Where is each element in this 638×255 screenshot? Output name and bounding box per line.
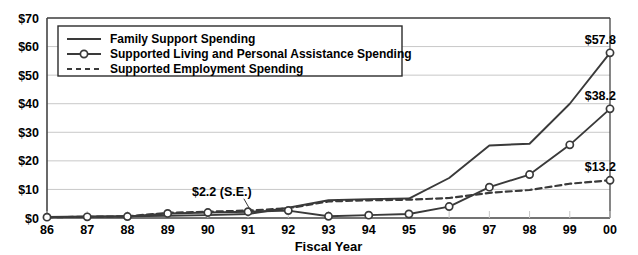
- legend-label-2: Supported Employment Spending: [110, 62, 303, 76]
- series-marker-1: [285, 207, 292, 214]
- x-axis-tick-label: 00: [603, 223, 617, 237]
- x-axis-tick-label: 93: [322, 223, 336, 237]
- y-axis-tick-label: $20: [18, 154, 39, 168]
- series-marker-1: [164, 210, 171, 217]
- y-axis-tick-label: $0: [25, 212, 39, 226]
- x-axis-tick-label: 88: [120, 223, 134, 237]
- y-axis-tick-label: $40: [18, 97, 39, 111]
- series-marker-1: [526, 171, 533, 178]
- series-marker-1: [486, 184, 493, 191]
- x-axis-tick-label: 92: [281, 223, 295, 237]
- series-end-label-1: $38.2: [585, 89, 616, 103]
- series-marker-1: [606, 105, 613, 112]
- series-marker-1: [446, 203, 453, 210]
- series-endpoint-2: [606, 177, 613, 184]
- legend-label-1: Supported Living and Personal Assistance…: [110, 47, 412, 61]
- series-marker-1: [204, 209, 211, 216]
- line-chart: $0$10$20$30$40$50$60$7086878889909192939…: [0, 0, 638, 255]
- series-marker-1: [43, 214, 50, 221]
- x-axis-tick-label: 96: [442, 223, 456, 237]
- x-axis-tick-label: 97: [482, 223, 496, 237]
- x-axis-tick-label: 89: [161, 223, 175, 237]
- y-axis-tick-label: $10: [18, 183, 39, 197]
- legend: Family Support SpendingSupported Living …: [58, 26, 412, 76]
- x-axis-tick-label: 86: [40, 223, 54, 237]
- x-axis-tick-label: 94: [362, 223, 376, 237]
- series-end-label-2: $13.2: [585, 160, 616, 174]
- x-axis-title: Fiscal Year: [295, 239, 363, 254]
- series-marker-1: [124, 213, 131, 220]
- x-axis-tick-label: 98: [523, 223, 537, 237]
- y-axis-tick-label: $30: [18, 126, 39, 140]
- chart-canvas: $0$10$20$30$40$50$60$7086878889909192939…: [0, 0, 638, 255]
- legend-swatch-marker-1: [80, 50, 87, 57]
- y-axis-tick-label: $50: [18, 69, 39, 83]
- series-marker-1: [84, 213, 91, 220]
- series-endpoint-0: [606, 49, 613, 56]
- x-axis-tick-label: 99: [563, 223, 577, 237]
- series-end-label-0: $57.8: [585, 33, 616, 47]
- annotation-label: $2.2 (S.E.): [192, 185, 252, 199]
- series-marker-1: [244, 208, 251, 215]
- series-marker-1: [365, 212, 372, 219]
- series-marker-1: [325, 213, 332, 220]
- y-axis-tick-label: $60: [18, 40, 39, 54]
- x-axis-tick-label: 87: [80, 223, 94, 237]
- series-marker-1: [566, 141, 573, 148]
- x-axis-tick-label: 90: [201, 223, 215, 237]
- x-axis-tick-label: 91: [241, 223, 255, 237]
- series-marker-1: [405, 210, 412, 217]
- legend-label-0: Family Support Spending: [110, 32, 255, 46]
- x-axis-tick-label: 95: [402, 223, 416, 237]
- y-axis-tick-label: $70: [18, 12, 39, 26]
